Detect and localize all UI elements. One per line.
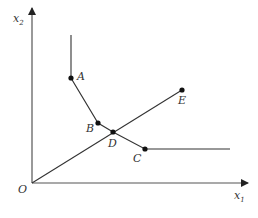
x-axis-label: x1 xyxy=(234,189,245,204)
point-D xyxy=(110,129,115,134)
isoquant-diagram: x2 x1 O A B D C E xyxy=(0,0,258,218)
label-E: E xyxy=(177,94,186,107)
point-C xyxy=(142,146,147,151)
label-C: C xyxy=(133,152,142,165)
point-B xyxy=(95,120,100,125)
origin-label: O xyxy=(18,183,27,196)
y-axis-label: x2 xyxy=(13,12,24,27)
point-A xyxy=(68,75,73,80)
label-D: D xyxy=(107,137,117,150)
label-A: A xyxy=(76,70,85,83)
point-E xyxy=(179,87,184,92)
isoquant-curve xyxy=(71,35,230,149)
label-B: B xyxy=(85,122,94,135)
ray-OE xyxy=(32,90,182,183)
